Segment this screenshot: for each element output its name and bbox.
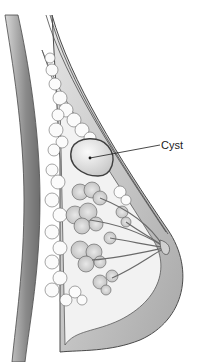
anatomy-illustration <box>0 0 199 362</box>
cyst-label: Cyst <box>161 139 183 151</box>
cyst-leader-dot <box>89 157 92 160</box>
chest-wall <box>5 15 40 362</box>
breast-anatomy-diagram: Cyst <box>0 0 199 362</box>
